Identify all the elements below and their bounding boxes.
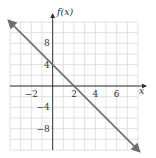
x-tick-label: 4 — [92, 89, 98, 99]
y-tick-label: 8 — [44, 38, 50, 48]
x-axis-label: x — [139, 85, 145, 96]
y-tick-label: −8 — [36, 124, 50, 134]
x-tick-label: 2 — [71, 89, 77, 99]
chart: −224684−4−8 f(x) x — [0, 0, 156, 158]
y-axis-label: f(x) — [56, 6, 74, 17]
axes — [10, 14, 146, 150]
y-tick-label: −4 — [36, 102, 50, 112]
x-tick-label: 6 — [114, 89, 120, 99]
x-tick-label: −2 — [25, 89, 38, 99]
